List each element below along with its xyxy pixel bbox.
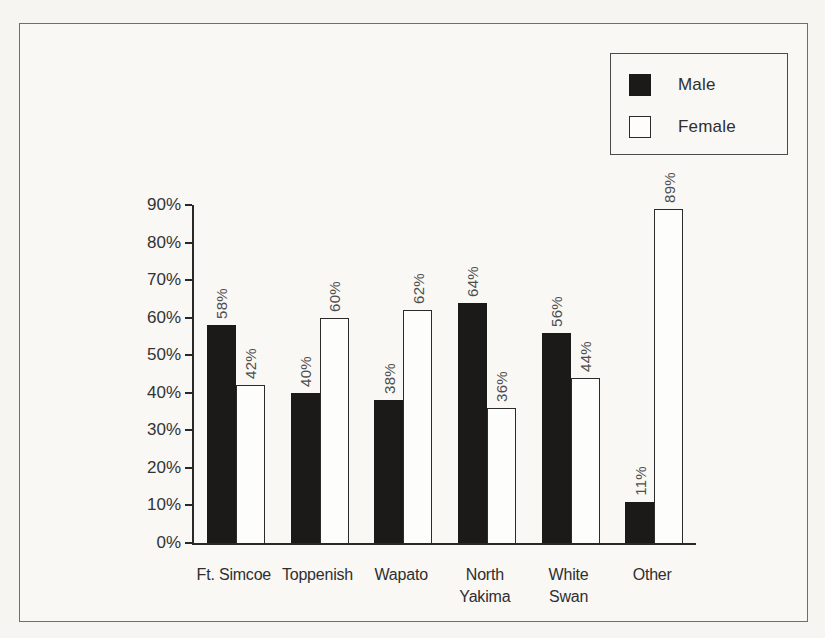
bar-value-label: 42% <box>242 348 259 379</box>
bar-male <box>542 333 571 543</box>
x-category-label: Ft. Simcoe <box>192 564 276 608</box>
x-category-label: North Yakima <box>443 564 527 608</box>
bar-female <box>236 385 265 543</box>
y-axis-tick-label: 40% <box>121 383 181 403</box>
bar-value-label: 58% <box>213 288 230 319</box>
legend-item-female: Female <box>629 116 736 138</box>
bar-female <box>654 209 683 543</box>
legend-male-label: Male <box>678 75 716 95</box>
legend-item-male: Male <box>629 74 716 96</box>
y-axis-tick <box>185 542 192 544</box>
bar-group: 38%62% <box>361 205 445 543</box>
y-axis-tick-label: 50% <box>121 345 181 365</box>
bar-value-label: 44% <box>577 341 594 372</box>
legend: Male Female <box>610 53 788 155</box>
y-axis-tick-label: 60% <box>121 308 181 328</box>
x-category-label: White Swan <box>527 564 611 608</box>
y-axis-tick <box>185 204 192 206</box>
y-axis-tick <box>185 504 192 506</box>
plot-area: 0%10%20%30%40%50%60%70%80%90% 58%42%40%6… <box>192 205 696 545</box>
bar-male <box>374 400 403 543</box>
bar-value-label: 62% <box>409 273 426 304</box>
bar-group: 56%44% <box>529 205 613 543</box>
bar-group: 11%89% <box>612 205 696 543</box>
bar-value-label: 64% <box>464 266 481 297</box>
x-axis-labels: Ft. SimcoeToppenishWapatoNorth YakimaWhi… <box>192 564 694 608</box>
bar-value-label: 56% <box>548 296 565 327</box>
bar-female <box>403 310 432 543</box>
y-axis-tick <box>185 354 192 356</box>
scanned-figure-page: Male Female 0%10%20%30%40%50%60%70%80%90… <box>0 0 825 638</box>
y-axis-tick-label: 70% <box>121 270 181 290</box>
y-axis-tick <box>185 392 192 394</box>
bar-value-label: 40% <box>297 356 314 387</box>
y-axis-tick <box>185 317 192 319</box>
y-axis-tick-label: 0% <box>121 533 181 553</box>
y-axis-tick <box>185 242 192 244</box>
y-axis-tick <box>185 429 192 431</box>
bar-female <box>487 408 516 543</box>
y-axis-tick <box>185 467 192 469</box>
bar-male <box>458 303 487 543</box>
y-axis-tick-label: 10% <box>121 495 181 515</box>
y-axis-tick-label: 20% <box>121 458 181 478</box>
x-category-label: Wapato <box>359 564 443 608</box>
bar-male <box>625 502 654 543</box>
bar-male <box>291 393 320 543</box>
y-axis-tick <box>185 279 192 281</box>
bar-group: 64%36% <box>445 205 529 543</box>
bar-value-label: 38% <box>380 363 397 394</box>
bar-female <box>571 378 600 543</box>
bar-groups: 58%42%40%60%38%62%64%36%56%44%11%89% <box>194 205 696 543</box>
y-axis-tick-label: 30% <box>121 420 181 440</box>
bar-female <box>320 318 349 543</box>
bar-value-label: 11% <box>631 466 648 496</box>
y-axis-tick-label: 80% <box>121 233 181 253</box>
legend-female-swatch-icon <box>629 116 651 138</box>
x-category-label: Toppenish <box>276 564 360 608</box>
bar-group: 58%42% <box>194 205 278 543</box>
bar-group: 40%60% <box>278 205 362 543</box>
y-axis-tick-label: 90% <box>121 195 181 215</box>
bar-value-label: 60% <box>326 281 343 312</box>
bar-male <box>207 325 236 543</box>
legend-male-swatch-icon <box>629 74 651 96</box>
bar-value-label: 89% <box>660 172 677 203</box>
bar-value-label: 36% <box>493 371 510 402</box>
legend-female-label: Female <box>678 117 736 137</box>
x-category-label: Other <box>610 564 694 608</box>
